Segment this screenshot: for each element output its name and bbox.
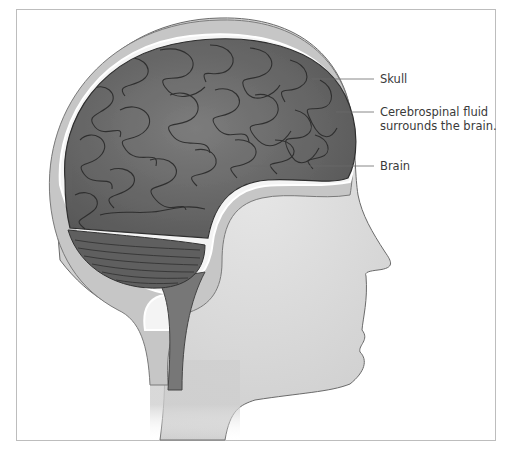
label-skull-text: Skull xyxy=(380,72,407,86)
label-csf-line-2: surrounds the brain. xyxy=(380,119,497,133)
label-csf-line-1: Cerebrospinal fluid xyxy=(380,105,497,119)
label-csf: Cerebrospinal fluid surrounds the brain. xyxy=(380,105,497,133)
label-brain: Brain xyxy=(380,159,410,173)
label-skull: Skull xyxy=(380,72,407,86)
label-brain-text: Brain xyxy=(380,159,410,173)
head-illustration xyxy=(0,0,515,460)
